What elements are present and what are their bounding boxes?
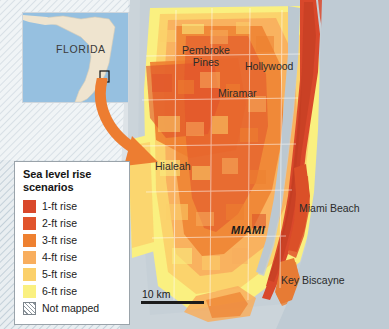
sea-level-rise-map-figure: FLORIDA Pembroke Pines Hollywood Miramar… xyxy=(0,0,389,329)
legend-label-not-mapped: Not mapped xyxy=(42,303,99,314)
legend-swatch-not-mapped xyxy=(23,302,36,315)
legend-item-6ft[interactable]: 6-ft rise xyxy=(23,283,122,300)
legend-swatch-4ft xyxy=(23,251,36,264)
legend-label-2ft: 2-ft rise xyxy=(42,218,77,229)
legend-label-4ft: 4-ft rise xyxy=(42,252,77,263)
legend-item-1ft[interactable]: 1-ft rise xyxy=(23,198,122,215)
legend-title: Sea level rise scenarios xyxy=(23,168,122,194)
legend-swatch-3ft xyxy=(23,234,36,247)
map-legend: Sea level rise scenarios 1-ft rise 2-ft … xyxy=(14,161,130,325)
legend-label-5ft: 5-ft rise xyxy=(42,269,77,280)
legend-label-3ft: 3-ft rise xyxy=(42,235,77,246)
legend-label-1ft: 1-ft rise xyxy=(42,201,77,212)
legend-swatch-1ft xyxy=(23,200,36,213)
legend-label-6ft: 6-ft rise xyxy=(42,286,77,297)
legend-item-4ft[interactable]: 4-ft rise xyxy=(23,249,122,266)
legend-title-line2: scenarios xyxy=(23,181,73,193)
legend-swatch-2ft xyxy=(23,217,36,230)
legend-item-2ft[interactable]: 2-ft rise xyxy=(23,215,122,232)
legend-item-5ft[interactable]: 5-ft rise xyxy=(23,266,122,283)
florida-inset-map xyxy=(22,12,129,103)
legend-swatch-6ft xyxy=(23,285,36,298)
legend-item-3ft[interactable]: 3-ft rise xyxy=(23,232,122,249)
legend-swatch-5ft xyxy=(23,268,36,281)
legend-item-not-mapped[interactable]: Not mapped xyxy=(23,300,122,317)
legend-title-line1: Sea level rise xyxy=(23,168,91,180)
